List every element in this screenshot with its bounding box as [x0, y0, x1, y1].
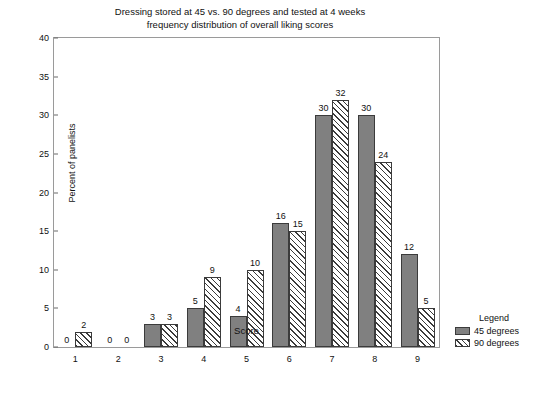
x-axis-tick-label: 9 [415, 347, 420, 364]
x-axis-tick-label: 3 [158, 347, 163, 364]
x-axis-tick-label: 5 [244, 347, 249, 364]
y-axis-tick-mark [54, 76, 58, 77]
bar-45-degrees-7 [315, 115, 332, 347]
bar-value-label: 30 [361, 103, 371, 113]
bar-45-degrees-8 [358, 115, 375, 347]
legend-item-label: 45 degrees [474, 326, 519, 336]
bar-value-label: 0 [107, 335, 112, 345]
bar-90-degrees-8 [375, 162, 392, 347]
y-axis-tick-mark [54, 231, 58, 232]
chart-title-line-1: Dressing stored at 45 vs. 90 degrees and… [0, 5, 480, 18]
y-axis-tick-mark [54, 115, 58, 116]
y-axis-tick-mark [54, 38, 58, 39]
bar-90-degrees-4 [204, 277, 221, 347]
y-axis-tick-label: 20 [39, 188, 54, 198]
y-axis-tick-mark [54, 347, 58, 348]
bar-value-label: 15 [293, 219, 303, 229]
x-axis-tick-label: 1 [73, 347, 78, 364]
y-axis-tick-label: 10 [39, 265, 54, 275]
y-axis-tick-label: 15 [39, 226, 54, 236]
chart-title: Dressing stored at 45 vs. 90 degrees and… [0, 5, 480, 31]
y-axis-tick-label: 40 [39, 33, 54, 43]
y-axis-tick-label: 5 [44, 303, 54, 313]
bar-value-label: 24 [378, 150, 388, 160]
bar-90-degrees-7 [332, 100, 349, 347]
y-axis-tick-label: 35 [39, 72, 54, 82]
y-axis-tick-mark [54, 269, 58, 270]
legend-item: 45 degrees [455, 326, 533, 336]
y-axis-tick-mark [54, 153, 58, 154]
x-axis-label: Score [53, 325, 440, 336]
plot-area: Percent of panelists 0510152025303540 12… [53, 37, 440, 348]
bar-value-label: 3 [150, 312, 155, 322]
bar-value-label: 0 [64, 335, 69, 345]
chart-title-line-2: frequency distribution of overall liking… [0, 18, 480, 31]
legend-swatch-icon [455, 339, 470, 347]
x-axis-tick-label: 7 [330, 347, 335, 364]
bar-value-label: 5 [193, 296, 198, 306]
bar-value-label: 32 [336, 88, 346, 98]
legend-entries: 45 degrees90 degrees [455, 326, 533, 348]
legend: Legend 45 degrees90 degrees [455, 313, 533, 348]
bar-value-label: 0 [124, 335, 129, 345]
bar-value-label: 4 [235, 304, 240, 314]
x-axis-tick-label: 4 [201, 347, 206, 364]
y-axis-tick-label: 30 [39, 110, 54, 120]
chart-container: Dressing stored at 45 vs. 90 degrees and… [0, 0, 549, 397]
bar-value-label: 16 [276, 211, 286, 221]
bar-value-label: 10 [250, 258, 260, 268]
x-axis-tick-label: 8 [372, 347, 377, 364]
y-axis-tick-mark [54, 192, 58, 193]
legend-item-label: 90 degrees [474, 338, 519, 348]
y-axis-tick-label: 25 [39, 149, 54, 159]
y-axis-tick-label: 0 [44, 342, 54, 352]
bar-value-label: 5 [424, 296, 429, 306]
legend-swatch-icon [455, 327, 470, 335]
x-axis-tick-label: 6 [287, 347, 292, 364]
bar-value-label: 3 [167, 312, 172, 322]
x-axis-tick-label: 2 [116, 347, 121, 364]
bar-value-label: 30 [319, 103, 329, 113]
bar-value-label: 12 [404, 242, 414, 252]
y-axis-tick-mark [54, 308, 58, 309]
legend-title: Legend [455, 313, 533, 323]
bar-value-label: 9 [210, 265, 215, 275]
y-axis-label: Percent of panelists [67, 83, 77, 243]
legend-item: 90 degrees [455, 338, 533, 348]
